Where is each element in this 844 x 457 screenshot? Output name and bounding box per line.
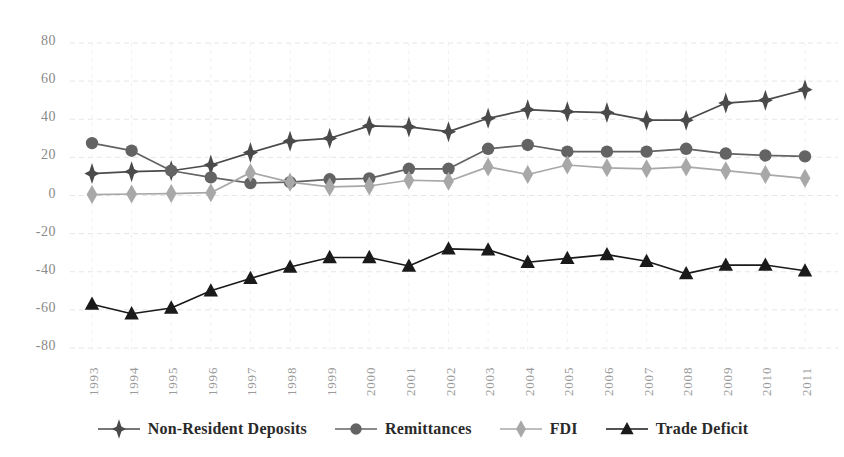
data-point-marker bbox=[718, 93, 733, 114]
diamond-star-icon bbox=[96, 419, 142, 439]
data-point-marker bbox=[800, 169, 811, 188]
data-point-marker bbox=[481, 108, 496, 129]
data-point-marker bbox=[164, 300, 178, 313]
x-axis-tick-label: 2001 bbox=[403, 367, 419, 396]
y-axis-tick-label: 40 bbox=[14, 109, 56, 125]
data-point-marker bbox=[599, 102, 614, 123]
x-axis-tick-label: 1999 bbox=[324, 367, 340, 396]
data-point-marker bbox=[719, 257, 733, 270]
data-point-marker bbox=[322, 250, 336, 263]
data-point-marker bbox=[562, 156, 573, 175]
data-point-marker bbox=[243, 142, 258, 163]
legend-item-remittances[interactable]: Remittances bbox=[333, 419, 472, 439]
data-point-marker bbox=[602, 158, 613, 177]
y-axis-tick-label: -60 bbox=[14, 300, 56, 316]
data-point-marker bbox=[85, 297, 99, 310]
data-point-marker bbox=[758, 257, 772, 270]
data-point-marker bbox=[797, 79, 812, 100]
data-point-marker bbox=[483, 157, 494, 176]
data-point-marker bbox=[441, 241, 455, 254]
data-point-marker bbox=[641, 159, 652, 178]
data-point-marker bbox=[639, 110, 654, 131]
data-point-marker bbox=[205, 183, 216, 202]
data-point-marker bbox=[285, 173, 296, 192]
data-point-marker bbox=[126, 184, 137, 203]
data-point-marker bbox=[522, 165, 533, 184]
legend-item-fdi[interactable]: FDI bbox=[498, 419, 578, 439]
data-point-marker bbox=[720, 147, 732, 159]
y-axis-tick-label: 0 bbox=[14, 186, 56, 202]
legend-item-label: Remittances bbox=[385, 420, 472, 438]
data-point-marker bbox=[799, 150, 811, 162]
circle-icon bbox=[333, 419, 379, 439]
x-axis-tick-label: 1996 bbox=[205, 367, 221, 396]
x-axis-tick-label: 2002 bbox=[443, 367, 459, 396]
x-axis-tick-label: 1993 bbox=[86, 367, 102, 396]
y-axis-tick-label: -40 bbox=[14, 262, 56, 278]
data-point-marker bbox=[516, 420, 526, 437]
data-point-marker bbox=[322, 128, 337, 149]
data-point-marker bbox=[640, 145, 652, 157]
legend-item-label: FDI bbox=[550, 420, 578, 438]
triangle-icon bbox=[604, 419, 650, 439]
data-point-marker bbox=[125, 145, 137, 157]
x-axis-tick-label: 1997 bbox=[244, 367, 260, 396]
data-point-marker bbox=[443, 172, 454, 191]
data-point-marker bbox=[481, 242, 495, 255]
legend-item-trade-deficit[interactable]: Trade Deficit bbox=[604, 419, 749, 439]
y-axis-tick-label: 80 bbox=[14, 33, 56, 49]
data-point-marker bbox=[560, 101, 575, 122]
chart-legend: Non-Resident DepositsRemittancesFDITrade… bbox=[0, 412, 844, 446]
data-point-marker bbox=[759, 149, 771, 161]
data-point-marker bbox=[112, 419, 126, 438]
data-point-marker bbox=[166, 184, 177, 203]
x-axis-tick-label: 2008 bbox=[680, 367, 696, 396]
x-axis-tick-label: 1994 bbox=[126, 367, 142, 396]
gridlines bbox=[70, 43, 838, 354]
data-point-marker bbox=[520, 99, 535, 120]
data-point-marker bbox=[362, 115, 377, 136]
y-axis-tick-label: -80 bbox=[14, 338, 56, 354]
x-axis-tick-label: 1995 bbox=[165, 367, 181, 396]
legend-item-label: Non-Resident Deposits bbox=[148, 420, 307, 438]
x-axis-tick-label: 2006 bbox=[601, 367, 617, 396]
data-point-marker bbox=[165, 165, 177, 177]
data-point-marker bbox=[760, 165, 771, 184]
x-axis-tick-label: 2003 bbox=[482, 367, 498, 396]
data-point-marker bbox=[84, 163, 99, 184]
x-axis-tick-label: 2009 bbox=[720, 367, 736, 396]
chart-container: 806040200-20-40-60-80 199319941995199619… bbox=[0, 0, 844, 457]
x-axis-tick-label: 1998 bbox=[284, 367, 300, 396]
data-point-marker bbox=[205, 171, 217, 183]
y-axis-tick-label: 60 bbox=[14, 71, 56, 87]
series-line bbox=[92, 249, 805, 314]
data-point-marker bbox=[600, 247, 614, 260]
x-axis-tick-label: 2005 bbox=[561, 367, 577, 396]
x-axis-tick-label: 2000 bbox=[363, 367, 379, 396]
data-point-marker bbox=[350, 423, 361, 434]
y-axis-tick-label: 20 bbox=[14, 147, 56, 163]
legend-item-non-resident-deposits[interactable]: Non-Resident Deposits bbox=[96, 419, 307, 439]
data-point-marker bbox=[86, 137, 98, 149]
data-point-marker bbox=[362, 250, 376, 263]
x-axis-tick-label: 2010 bbox=[759, 367, 775, 396]
data-point-marker bbox=[282, 131, 297, 152]
data-point-marker bbox=[124, 161, 139, 182]
diamond-icon bbox=[498, 419, 544, 439]
data-point-marker bbox=[680, 143, 692, 155]
data-point-marker bbox=[679, 110, 694, 131]
data-point-marker bbox=[720, 161, 731, 180]
data-point-marker bbox=[601, 145, 613, 157]
x-axis-tick-label: 2011 bbox=[799, 367, 815, 396]
data-point-marker bbox=[87, 185, 98, 204]
data-point-marker bbox=[681, 157, 692, 176]
legend-item-label: Trade Deficit bbox=[656, 420, 749, 438]
x-axis-tick-label: 2004 bbox=[522, 367, 538, 396]
x-axis-tick-label: 2007 bbox=[641, 367, 657, 396]
y-axis-tick-label: -20 bbox=[14, 224, 56, 240]
data-point-marker bbox=[482, 143, 494, 155]
data-point-marker bbox=[441, 121, 456, 142]
data-point-marker bbox=[522, 139, 534, 151]
data-point-marker bbox=[758, 90, 773, 111]
data-point-marker bbox=[620, 422, 633, 434]
